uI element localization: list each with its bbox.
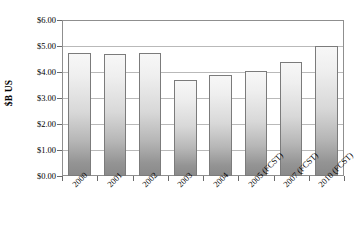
x-tick-label: 2004 <box>211 170 230 189</box>
x-tick-label: 2000 <box>70 170 89 189</box>
x-tick-mark <box>168 176 169 181</box>
x-tick-label: 2001 <box>105 170 124 189</box>
x-tick-mark <box>344 176 345 181</box>
x-tick-mark <box>97 176 98 181</box>
x-tick-mark <box>133 176 134 181</box>
x-tick-label: 2007 (FCST) <box>281 150 320 189</box>
x-tick-label: 2003 <box>175 170 194 189</box>
x-tick-mark <box>309 176 310 181</box>
x-tick-mark <box>62 176 63 181</box>
bar-chart: $B US $6.00 $5.00 $4.00 $3.00 $2.00 $1.0… <box>0 0 357 241</box>
x-tick-mark <box>238 176 239 181</box>
x-tick-mark <box>203 176 204 181</box>
x-tick-mark <box>274 176 275 181</box>
x-axis: 2000 2001 2002 2003 2004 2005 (FCST) 200… <box>0 0 357 241</box>
x-tick-label: 2002 <box>140 170 159 189</box>
x-tick-label: 2010 (FCST) <box>316 150 355 189</box>
x-tick-label: 2005 (FCST) <box>246 150 285 189</box>
